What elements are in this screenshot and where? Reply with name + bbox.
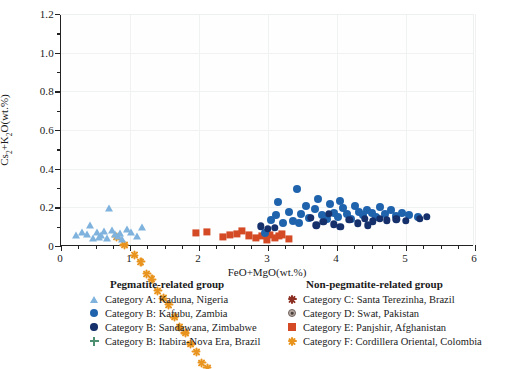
marker-square xyxy=(263,237,270,244)
marker-star-orange xyxy=(137,257,146,266)
marker-triangle xyxy=(90,296,98,303)
gridline-vertical xyxy=(268,14,269,245)
marker-circle-medium xyxy=(279,219,287,227)
legend-marker-triangle-icon xyxy=(86,292,102,306)
legend-item[interactable]: Category B: Kafubu, Zambia xyxy=(86,306,260,320)
x-tick-minor xyxy=(285,245,286,249)
y-tick-label: 1.0 xyxy=(40,47,54,59)
marker-circle-medium xyxy=(295,219,303,227)
legend-item-label: Category D: Swat, Pakistan xyxy=(300,308,419,319)
y-tick-major xyxy=(55,130,61,131)
legend-heading-right: Non-pegmatite-related group xyxy=(284,278,482,290)
x-tick-minor xyxy=(458,245,459,249)
legend-item-label: Category C: Santa Terezinha, Brazil xyxy=(300,294,455,305)
marker-circle-medium xyxy=(326,200,334,208)
x-tick-minor xyxy=(234,245,235,249)
y-tick-minor xyxy=(57,188,61,189)
marker-circle-dark xyxy=(383,217,390,224)
marker-star-orange xyxy=(288,337,297,346)
x-tick-minor xyxy=(113,245,114,249)
x-tick-minor xyxy=(354,245,355,249)
x-tick-minor xyxy=(78,245,79,249)
marker-triangle xyxy=(118,235,126,242)
x-tick-label: 0 xyxy=(57,252,63,264)
plot-area xyxy=(60,14,474,246)
marker-circle-dark xyxy=(402,217,409,224)
legend-marker-plus-icon xyxy=(86,334,102,348)
x-tick-minor xyxy=(251,245,252,249)
marker-square xyxy=(192,229,199,236)
marker-circle-medium xyxy=(293,185,301,193)
y-tick-major xyxy=(55,14,61,15)
x-tick-major xyxy=(61,245,62,251)
gridline-vertical xyxy=(406,14,407,245)
legend-item-label: Category A: Kaduna, Nigeria xyxy=(102,294,228,305)
marker-star-orange xyxy=(203,363,212,369)
legend-marker-star-red-icon xyxy=(284,292,300,306)
marker-circle-medium xyxy=(334,213,342,221)
x-tick-major xyxy=(406,245,407,251)
legend-item[interactable]: Category B: Itabira-Nova Era, Brazil xyxy=(86,334,260,348)
y-tick-major xyxy=(55,91,61,92)
gridline-vertical xyxy=(475,14,476,245)
marker-triangle xyxy=(138,223,146,230)
marker-circle-dark xyxy=(354,219,361,226)
marker-square xyxy=(285,236,292,243)
x-tick-label: 2 xyxy=(195,252,201,264)
marker-circle-medium xyxy=(297,210,305,218)
legend-item[interactable]: Category B: Sandawana, Zimbabwe xyxy=(86,320,260,334)
marker-circle-gray xyxy=(288,309,296,317)
legend-marker-star-orange-icon xyxy=(284,334,300,348)
legend-item-label: Category B: Sandawana, Zimbabwe xyxy=(102,322,257,333)
x-tick-minor xyxy=(303,245,304,249)
legend-marker-square-icon xyxy=(284,320,300,334)
x-tick-minor xyxy=(441,245,442,249)
y-tick-major xyxy=(55,169,61,170)
y-tick-label: 0.6 xyxy=(40,124,54,136)
y-tick-minor xyxy=(57,227,61,228)
legend-heading-left: Pegmatite-related group xyxy=(86,278,260,290)
x-tick-minor xyxy=(96,245,97,249)
marker-circle-dark xyxy=(346,216,353,223)
x-tick-major xyxy=(337,245,338,251)
x-tick-major xyxy=(475,245,476,251)
x-tick-minor xyxy=(389,245,390,249)
x-tick-minor xyxy=(372,245,373,249)
legend-item[interactable]: Category C: Santa Terezinha, Brazil xyxy=(284,292,482,306)
marker-triangle xyxy=(105,205,113,212)
legend-item[interactable]: Category F: Cordillera Oriental, Colombi… xyxy=(284,334,482,348)
y-tick-minor xyxy=(57,149,61,150)
marker-triangle xyxy=(103,234,111,241)
y-tick-label: 1.2 xyxy=(40,8,54,20)
marker-circle-medium xyxy=(272,211,280,219)
marker-square xyxy=(226,231,233,238)
legend-item[interactable]: Category D: Swat, Pakistan xyxy=(284,306,482,320)
legend-item[interactable]: Category E: Panjshir, Afghanistan xyxy=(284,320,482,334)
legend-item-label: Category E: Panjshir, Afghanistan xyxy=(300,322,446,333)
marker-circle-medium xyxy=(302,202,310,210)
marker-circle-dark xyxy=(90,323,97,330)
marker-circle-medium xyxy=(274,198,282,206)
marker-square xyxy=(275,232,282,239)
x-tick-minor xyxy=(320,245,321,249)
y-tick-minor xyxy=(57,72,61,73)
y-tick-label: 0.4 xyxy=(40,163,54,175)
y-axis-title: Cs2+K2O(wt.%) xyxy=(0,94,14,165)
legend-item[interactable]: Category A: Kaduna, Nigeria xyxy=(86,292,260,306)
marker-circle-dark xyxy=(307,214,314,221)
marker-circle-medium xyxy=(336,197,344,205)
x-tick-label: 6 xyxy=(471,252,477,264)
x-tick-minor xyxy=(182,245,183,249)
y-tick-minor xyxy=(57,111,61,112)
legend-item-label: Category F: Cordillera Oriental, Colombi… xyxy=(300,336,482,347)
x-tick-label: 4 xyxy=(333,252,339,264)
x-tick-minor xyxy=(423,245,424,249)
marker-circle-medium xyxy=(285,208,293,216)
marker-circle-medium xyxy=(90,309,98,317)
marker-triangle xyxy=(95,234,103,241)
chart-legend: Pegmatite-related group Category A: Kadu… xyxy=(0,278,512,358)
marker-circle-dark xyxy=(319,218,326,225)
x-tick-minor xyxy=(165,245,166,249)
y-tick-label: 0 xyxy=(48,240,54,252)
y-tick-label: 0.8 xyxy=(40,85,54,97)
